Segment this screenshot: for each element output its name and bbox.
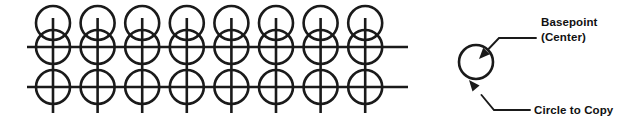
basepoint-label-line1: Basepoint [541, 16, 598, 28]
circle-to-copy-label-line1: Circle to Copy [534, 104, 614, 116]
circle-array-diagram: Basepoint (Center) Circle to Copy [0, 0, 621, 130]
diagram-canvas: Basepoint (Center) Circle to Copy [0, 0, 621, 130]
basepoint-label-line2: (Center) [541, 31, 586, 43]
